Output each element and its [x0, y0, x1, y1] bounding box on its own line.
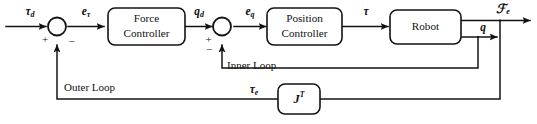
block-force-controller-label-line2: Controller	[124, 27, 170, 39]
jacobian-superscript: T	[300, 90, 305, 99]
outer-sum-plus-sign: +	[42, 33, 48, 45]
signal-label-tau-e: τe	[250, 83, 259, 97]
signal-label-q-d: qd	[194, 5, 205, 19]
summing-junction-outer	[48, 18, 66, 36]
signal-label-tau: τ	[363, 5, 369, 17]
diagram-canvas: Force Controller Position Controller Rob…	[0, 0, 537, 124]
summing-junction-inner	[213, 18, 231, 36]
outer-sum-minus-sign: −	[68, 35, 74, 47]
signal-tau-d-sub: d	[31, 9, 36, 18]
inner-sum-minus-sign: −	[206, 43, 212, 55]
signal-e-q-sub: q	[251, 9, 255, 18]
signal-label-e-q: eq	[245, 5, 254, 19]
block-force-controller-label-line1: Force	[134, 12, 160, 24]
signal-label-tau-d: τd	[25, 5, 35, 19]
signal-label-f-e: ℱe	[496, 1, 510, 16]
block-robot-label: Robot	[412, 20, 440, 32]
signal-tau-e-sub: e	[255, 87, 259, 96]
label-outer-loop: Outer Loop	[64, 81, 116, 93]
signal-e-tau-sub: τ	[87, 9, 91, 18]
label-inner-loop: Inner Loop	[227, 59, 277, 71]
signal-label-e-tau: eτ	[82, 5, 91, 19]
block-position-controller-label-line1: Position	[286, 12, 323, 24]
block-position-controller-label-line2: Controller	[282, 27, 328, 39]
signal-label-q: q	[480, 21, 486, 34]
signal-f-e-sub: e	[506, 6, 510, 15]
control-block-diagram: Force Controller Position Controller Rob…	[0, 0, 537, 124]
signal-q-d-sub: d	[200, 9, 205, 18]
